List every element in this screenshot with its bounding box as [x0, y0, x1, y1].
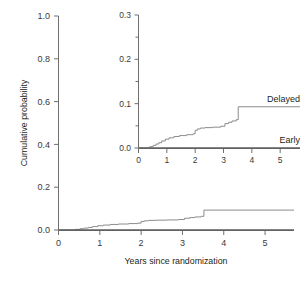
main-x-tick-label: 5	[263, 238, 268, 248]
main-x-tick-label: 2	[139, 238, 144, 248]
inset-x-tick-label: 0	[136, 155, 141, 165]
inset-x-tick-label: 3	[221, 155, 226, 165]
inset-y-tick-label: 0.2	[119, 54, 131, 64]
inset-x-tick-label: 2	[193, 155, 198, 165]
inset-y-tick-label: 0.3	[119, 10, 131, 20]
main-x-tick-label: 0	[56, 238, 61, 248]
main-y-tick-label: 0.8	[37, 54, 50, 64]
main-y-tick-label: 0.0	[37, 225, 50, 235]
inset-x-tick-label: 4	[249, 155, 254, 165]
y-axis-title: Cumulative probability	[19, 79, 29, 166]
inset-x-tick-label: 5	[278, 155, 283, 165]
main-x-tick-label: 4	[221, 238, 226, 248]
main-y-tick-label: 0.2	[37, 182, 50, 192]
inset-y-tick-label: 0.0	[119, 143, 131, 153]
main-y-tick-label: 1.0	[37, 11, 50, 21]
figure-container: 0.00.20.40.60.81.0 012345 Cumulative pro…	[0, 0, 306, 282]
x-axis-title: Years since randomization	[125, 256, 228, 266]
main-y-tick-label: 0.6	[37, 97, 50, 107]
inset-x-tick-label: 1	[164, 155, 169, 165]
series-label-delayed: Delayed	[267, 94, 300, 104]
main-x-tick-label: 3	[180, 238, 185, 248]
inset-y-tick-label: 0.1	[119, 99, 131, 109]
series-label-early: Early	[279, 135, 300, 145]
cumulative-incidence-chart: 0.00.20.40.60.81.0 012345 Cumulative pro…	[0, 0, 306, 282]
main-x-tick-label: 1	[97, 238, 102, 248]
main-y-tick-label: 0.4	[37, 140, 50, 150]
